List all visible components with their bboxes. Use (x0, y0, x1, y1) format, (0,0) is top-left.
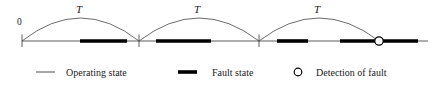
legend-item-fault-state: Fault state (178, 67, 254, 78)
detection-of-fault-marker (375, 37, 383, 45)
arc-label-T-1: T (76, 3, 83, 15)
detection-of-fault-icon (294, 68, 302, 76)
arc-period-1 (22, 18, 139, 41)
arc-label-T-3: T (314, 3, 321, 15)
legend-item-operating-state: Operating state (36, 67, 127, 78)
arc-group (22, 18, 379, 41)
legend-label-operating-state: Operating state (66, 67, 127, 78)
legend: Operating state Fault state Detection of… (36, 67, 387, 78)
arc-label-T-2: T (194, 3, 201, 15)
periodic-inspection-timeline-figure: T T T 0 Operating state (0, 0, 436, 90)
axis-origin-label: 0 (17, 17, 22, 27)
legend-item-detection-of-fault: Detection of fault (294, 67, 387, 78)
arc-period-3 (259, 18, 379, 41)
legend-label-detection-of-fault: Detection of fault (316, 67, 387, 78)
arc-period-2 (139, 18, 259, 41)
legend-label-fault-state: Fault state (212, 67, 254, 78)
